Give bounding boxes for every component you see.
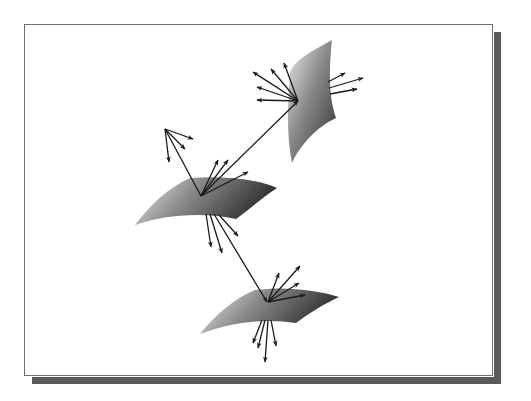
ray-surface-diagram (0, 0, 531, 401)
top-right-ray-1-arrow (328, 73, 345, 82)
bottom-surface (200, 288, 339, 334)
top-right-ray-3-arrow (330, 89, 357, 94)
connect-mid-to-bottom-arrow (214, 214, 267, 302)
mid-down-ray-1-arrow (206, 214, 211, 247)
bottom-down-ray-2-arrow (258, 320, 265, 348)
mid-down-ray-2-arrow (210, 214, 222, 253)
surfaces-layer (135, 40, 339, 334)
bottom-down-ray-3-arrow (265, 320, 268, 362)
bottom-down-ray-4-arrow (271, 320, 276, 346)
